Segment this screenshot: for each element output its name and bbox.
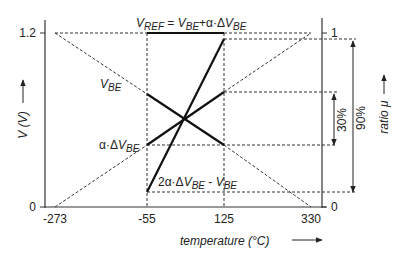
xtick-m273: -273 [43,212,67,226]
y2tick-1: 1 [331,26,338,40]
vref-title: VREF = VBE+α·ΔVBE [136,16,247,32]
pct90-label: 90% [354,106,368,130]
xtick-330: 330 [301,212,321,226]
two-alpha-label: 2α·ΔVBE - VBE [158,175,237,191]
ytick-0: 0 [29,200,36,214]
x-axis-label: temperature (°C) [180,234,270,248]
xtick-m55: -55 [138,212,156,226]
y2-axis-label: ratio μ [377,100,391,134]
xtick-125: 125 [214,212,234,226]
alpha-dvbe-label: α·ΔVBE [99,138,140,154]
solid-lines [147,33,224,192]
two-alpha-line [147,39,224,192]
diagram-canvas: 1.2 0 1 0 -273 -55 125 330 VREF = VBE+α·… [0,0,405,254]
y-axis-label: V (V) [16,111,30,138]
vbe-label: VBE [100,77,122,93]
y2tick-0: 0 [331,200,338,214]
pct30-label: 30% [335,108,349,132]
ytick-1.2: 1.2 [19,26,36,40]
